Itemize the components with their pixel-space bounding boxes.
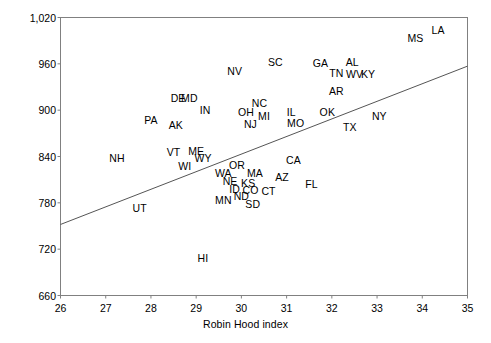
data-point-ak: AK bbox=[169, 119, 183, 130]
scatter-chart: Age-adjusted mortality rate 660720780840… bbox=[0, 0, 491, 343]
data-point-nh: NH bbox=[109, 153, 124, 164]
data-point-md: MD bbox=[181, 92, 198, 103]
data-point-nj: NJ bbox=[244, 119, 257, 130]
data-point-pa: PA bbox=[144, 115, 157, 126]
data-point-ar: AR bbox=[329, 85, 344, 96]
data-point-az: AZ bbox=[275, 172, 289, 183]
data-point-ok: OK bbox=[320, 107, 335, 118]
data-point-ms: MS bbox=[408, 32, 424, 43]
data-point-mo: MO bbox=[287, 118, 304, 129]
data-point-la: LA bbox=[432, 24, 445, 35]
regression-trendline bbox=[61, 66, 468, 224]
data-point-nc: NC bbox=[252, 98, 267, 109]
data-point-tn: TN bbox=[329, 68, 343, 79]
data-point-in: IN bbox=[200, 105, 211, 116]
data-point-hi: HI bbox=[198, 253, 209, 264]
data-point-ga: GA bbox=[313, 58, 328, 69]
data-point-wy: WY bbox=[194, 153, 211, 164]
plot-frame bbox=[0, 0, 491, 343]
data-point-mi: MI bbox=[258, 110, 270, 121]
data-point-oh: OH bbox=[238, 106, 254, 117]
data-point-ca: CA bbox=[286, 155, 301, 166]
data-point-mn: MN bbox=[215, 194, 232, 205]
data-point-ct: CT bbox=[261, 186, 275, 197]
data-point-ky: KY bbox=[361, 68, 375, 79]
data-point-il: IL bbox=[287, 106, 296, 117]
data-point-fl: FL bbox=[305, 178, 317, 189]
data-point-al: AL bbox=[346, 56, 359, 67]
data-point-sd: SD bbox=[245, 198, 260, 209]
data-point-nv: NV bbox=[227, 65, 242, 76]
data-point-sc: SC bbox=[268, 57, 283, 68]
data-point-tx: TX bbox=[343, 122, 357, 133]
x-axis-title: Robin Hood index bbox=[0, 318, 491, 330]
data-point-ny: NY bbox=[372, 110, 387, 121]
data-point-vt: VT bbox=[167, 146, 181, 157]
data-point-wi: WI bbox=[178, 160, 191, 171]
data-point-ut: UT bbox=[133, 203, 147, 214]
